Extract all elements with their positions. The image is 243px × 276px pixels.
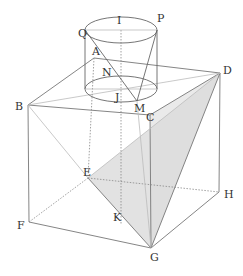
label-M: M bbox=[134, 102, 145, 115]
label-I: I bbox=[117, 14, 121, 27]
label-B: B bbox=[15, 100, 23, 113]
label-G: G bbox=[150, 251, 159, 264]
label-N: N bbox=[102, 66, 112, 79]
geometry-figure: I P Q A N J M C D B E F K G H bbox=[0, 0, 243, 276]
cylinder bbox=[85, 17, 157, 102]
label-C: C bbox=[146, 111, 154, 124]
label-E: E bbox=[83, 166, 91, 179]
label-J: J bbox=[114, 91, 119, 104]
label-Q: Q bbox=[78, 27, 87, 40]
label-F: F bbox=[17, 219, 25, 232]
label-P: P bbox=[157, 12, 165, 25]
label-A: A bbox=[91, 45, 101, 58]
label-D: D bbox=[223, 64, 232, 77]
cube-cylinder-diagram: I P Q A N J M C D B E F K G H bbox=[0, 0, 243, 276]
label-H: H bbox=[224, 188, 234, 201]
label-K: K bbox=[113, 211, 122, 224]
